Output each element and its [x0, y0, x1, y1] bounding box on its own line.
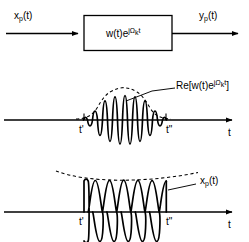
- output-signal-label: yp(t): [199, 10, 217, 23]
- figure-canvas: xp(t) w(t)ejΩkt yp(t) t: [0, 0, 249, 242]
- middle-mark-start-label: t': [79, 124, 84, 135]
- bottom-signal-curve: [84, 179, 166, 242]
- bottom-mark-start-label: t': [79, 216, 84, 227]
- bottom-annotation-label: xp(t): [200, 175, 218, 188]
- bottom-axis-label: t: [228, 219, 231, 230]
- middle-mark-end-label: t": [166, 124, 173, 135]
- middle-axis-label: t: [228, 127, 231, 138]
- bottom-annotation-leader: [168, 184, 196, 190]
- bottom-mark-end-label: t": [166, 216, 173, 227]
- middle-waveform-panel: t t' t" Re[w(t)ejΩkt]: [4, 79, 232, 144]
- figure-root: xp(t) w(t)ejΩkt yp(t) t: [0, 0, 249, 242]
- bottom-waveform-panel: t t' t" xp(t): [4, 171, 232, 242]
- block-diagram-panel: xp(t) w(t)ejΩkt yp(t): [6, 10, 238, 51]
- input-signal-label: xp(t): [14, 10, 32, 23]
- bottom-envelope-curve: [56, 171, 198, 180]
- middle-annotation-label: Re[w(t)ejΩkt]: [176, 79, 229, 91]
